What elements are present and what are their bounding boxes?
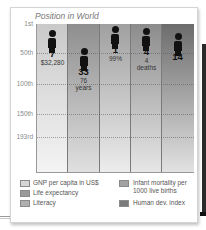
gridline-150th [37,114,194,115]
rank-value: 14 [162,51,193,62]
legend-swatch [20,200,30,207]
value-unit: deaths [131,64,162,72]
legend-label: Infant mortality per [133,179,187,187]
y-tick-label: 193rd [11,133,33,140]
chart-card: Position in World 1st 50th 100th 150th 1… [10,7,198,223]
rank-value: 1 [100,44,131,55]
y-tick-label: 1st [11,20,33,27]
legend-label: Literacy [33,199,56,207]
y-tick-label: 100th [11,80,33,87]
legend-label: Life expectancy [33,189,78,197]
column-life-expectancy [68,24,100,172]
gridline-100th [37,84,194,85]
value-unit: years [68,84,99,92]
page-edge-bar [202,44,206,216]
legend-swatch [119,180,129,187]
rank-value: 7 [37,48,68,59]
y-tick-label: 50th [11,49,33,56]
page-edge-bar-foot [200,212,206,216]
gridline-193rd [37,137,194,138]
value-label: $32,280 [37,59,68,67]
legend-swatch [20,190,30,197]
legend-swatch [20,180,30,187]
rank-value: 33 [68,66,99,77]
plot-area: 7 $32,280 33 76 years 1 99% 4 4 deaths 1… [36,24,194,173]
legend-label: Human dev. index [133,199,185,207]
legend-swatch [119,200,129,207]
y-tick-label: 150th [11,110,33,117]
rank-value: 4 [131,46,162,57]
chart-title: Position in World [35,11,99,21]
legend-label: GNP per capita in US$ [33,179,99,187]
value-label: 99% [100,55,131,63]
legend-label-line2: 1000 live births [133,187,177,195]
